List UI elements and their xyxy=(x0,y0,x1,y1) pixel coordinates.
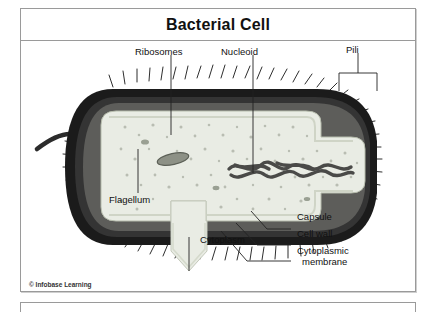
figure-frame: Bacterial Cell xyxy=(20,8,416,292)
label-cytoplasm: Cytoplasm xyxy=(200,235,245,246)
figure-title-bar: Bacterial Cell xyxy=(21,9,415,41)
label-capsule: Capsule xyxy=(297,212,332,223)
label-ribosomes: Ribosomes xyxy=(135,47,183,58)
next-figure-frame-edge xyxy=(20,302,416,312)
label-cytoplasmic-membrane-line2: membrane xyxy=(302,257,347,268)
label-pili: Pili xyxy=(346,45,359,56)
page-title: Bacterial Cell xyxy=(166,16,270,34)
label-flagellum: Flagellum xyxy=(109,195,150,206)
label-cell-wall: Cell wall xyxy=(297,229,332,240)
diagram-canvas: Ribosomes Nucleoid Pili Flagellum Cytopl… xyxy=(21,41,415,292)
bacterial-cell-illustration xyxy=(21,41,417,292)
label-nucleoid: Nucleoid xyxy=(221,47,258,58)
label-cytoplasmic-membrane-line1: Cytoplasmic xyxy=(297,245,349,256)
label-cytoplasmic-membrane: Cytoplasmic membrane xyxy=(297,246,349,268)
copyright-notice: © Infobase Learning xyxy=(29,281,92,288)
